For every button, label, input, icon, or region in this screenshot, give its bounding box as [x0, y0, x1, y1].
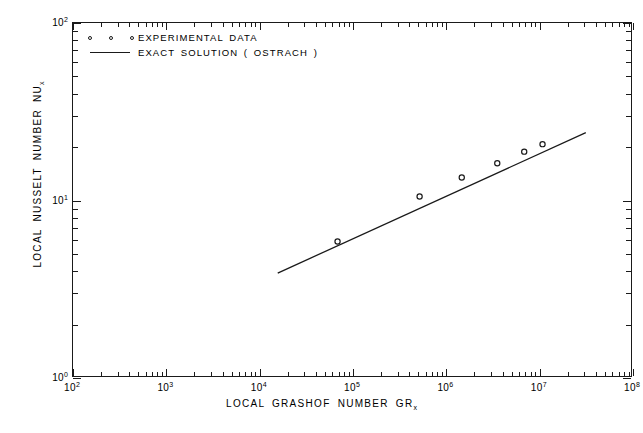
x-tick — [166, 23, 167, 30]
x-tick — [432, 23, 433, 27]
y-tick — [626, 31, 631, 32]
x-tick — [332, 372, 333, 376]
x-tick — [568, 372, 569, 376]
y-tick — [73, 240, 78, 241]
y-tick — [626, 62, 631, 63]
x-tick — [73, 369, 74, 376]
x-tick-label: 104 — [251, 381, 267, 393]
y-tick — [73, 147, 78, 148]
x-tick — [446, 23, 447, 30]
x-axis-title: LOCAL GRASHOF NUMBER GRx — [0, 398, 643, 411]
y-tick-label: 102 — [38, 16, 68, 28]
x-tick — [519, 23, 520, 27]
y-tick — [623, 201, 631, 202]
x-tick — [232, 372, 233, 376]
x-tick — [239, 23, 240, 27]
y-tick — [626, 50, 631, 51]
y-tick — [626, 240, 631, 241]
figure: 102103104105106107108 100101102 EXPERIME… — [0, 0, 643, 433]
circle-marker-icon — [130, 36, 134, 40]
x-tick — [612, 372, 613, 376]
x-tick — [568, 23, 569, 27]
x-tick — [398, 372, 399, 376]
y-tick — [73, 293, 78, 294]
x-tick — [316, 23, 317, 27]
x-tick — [446, 369, 447, 376]
x-tick — [152, 23, 153, 27]
y-tick — [73, 325, 78, 326]
x-tick-label: 105 — [344, 381, 360, 393]
y-tick — [73, 201, 81, 202]
y-tick — [623, 23, 631, 24]
x-tick — [353, 369, 354, 376]
x-tick-label: 103 — [157, 381, 173, 393]
x-tick — [316, 372, 317, 376]
y-tick — [73, 254, 78, 255]
y-tick — [73, 209, 78, 210]
x-tick — [584, 372, 585, 376]
legend-entry-exact-solution: EXACT SOLUTION ( OSTRACH ) — [88, 45, 338, 60]
x-axis-title-subscript: x — [413, 404, 417, 411]
y-tick — [73, 23, 81, 24]
x-tick — [146, 23, 147, 27]
x-tick — [162, 372, 163, 376]
x-tick — [166, 369, 167, 376]
y-tick — [73, 76, 78, 77]
x-axis-title-text: LOCAL GRASHOF NUMBER GR — [226, 398, 413, 409]
y-tick — [626, 228, 631, 229]
y-tick — [73, 94, 78, 95]
x-tick — [512, 23, 513, 27]
x-tick — [223, 23, 224, 27]
y-axis-title-text: LOCAL NUSSELT NUMBER NU — [32, 85, 43, 268]
x-tick — [339, 372, 340, 376]
x-tick — [437, 23, 438, 27]
x-tick — [339, 23, 340, 27]
x-tick — [535, 372, 536, 376]
x-tick — [251, 372, 252, 376]
x-tick — [251, 23, 252, 27]
y-tick — [626, 40, 631, 41]
x-tick — [349, 372, 350, 376]
x-tick — [73, 23, 74, 30]
x-tick — [152, 372, 153, 376]
x-tick — [596, 372, 597, 376]
y-axis-title-subscript: x — [38, 81, 45, 85]
x-tick — [418, 23, 419, 27]
y-tick — [73, 62, 78, 63]
x-tick — [596, 23, 597, 27]
x-tick — [245, 23, 246, 27]
x-tick — [245, 372, 246, 376]
legend: EXPERIMENTAL DATA EXACT SOLUTION ( OSTRA… — [88, 30, 338, 60]
x-tick — [260, 369, 261, 376]
x-tick — [255, 372, 256, 376]
x-tick — [211, 372, 212, 376]
x-tick — [138, 23, 139, 27]
x-tick — [531, 23, 532, 27]
plot-frame — [72, 22, 632, 377]
x-tick — [605, 23, 606, 27]
legend-entry-experimental: EXPERIMENTAL DATA — [88, 30, 338, 45]
y-tick — [73, 378, 81, 379]
x-tick — [584, 23, 585, 27]
y-tick — [626, 218, 631, 219]
circle-marker-icon — [88, 36, 92, 40]
x-tick — [531, 372, 532, 376]
x-tick — [474, 372, 475, 376]
x-tick — [381, 372, 382, 376]
y-tick-label: 100 — [38, 371, 68, 383]
x-tick — [129, 372, 130, 376]
x-tick — [491, 23, 492, 27]
y-tick — [626, 293, 631, 294]
y-tick — [73, 271, 78, 272]
y-tick — [73, 40, 78, 41]
legend-label-exact-solution: EXACT SOLUTION ( OSTRACH ) — [138, 47, 318, 58]
y-tick — [626, 76, 631, 77]
x-tick — [605, 372, 606, 376]
x-tick — [442, 372, 443, 376]
x-tick — [194, 372, 195, 376]
x-tick — [101, 372, 102, 376]
x-tick — [211, 23, 212, 27]
y-tick — [626, 116, 631, 117]
y-tick — [73, 228, 78, 229]
x-tick — [398, 23, 399, 27]
